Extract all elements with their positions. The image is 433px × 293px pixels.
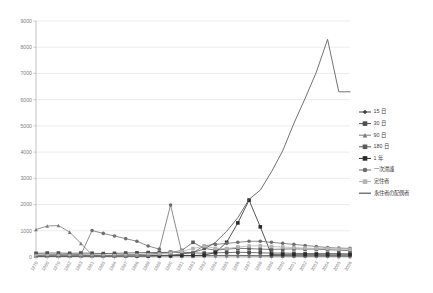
data-point-marker (247, 244, 251, 248)
legend-item-label: 30 日 (374, 120, 387, 127)
data-point-marker (169, 203, 173, 207)
data-point-marker (303, 253, 307, 257)
legend-item-label: 15 日 (374, 108, 387, 115)
data-point-marker (90, 229, 94, 233)
data-point-marker (113, 234, 117, 238)
legend-swatch-marker (363, 121, 368, 126)
data-point-marker (236, 250, 240, 254)
data-point-marker (258, 251, 262, 255)
data-point-marker (337, 247, 341, 251)
data-point-marker (135, 239, 139, 243)
data-point-marker (315, 247, 319, 251)
data-point-marker (236, 245, 240, 249)
data-point-marker (348, 248, 352, 252)
legend-item-label: 一次滞護 (374, 165, 395, 173)
data-point-marker (236, 221, 240, 225)
data-point-marker (292, 246, 296, 250)
legend-swatch-marker (363, 179, 368, 184)
data-point-marker (214, 247, 218, 251)
data-point-marker (258, 225, 262, 229)
data-point-marker (124, 254, 128, 258)
data-point-marker (292, 243, 296, 247)
data-point-marker (270, 253, 274, 257)
data-point-marker (146, 244, 150, 248)
y-tick-label: 6000 (20, 97, 32, 103)
data-point-marker (258, 239, 262, 243)
y-tick-label: 5000 (20, 123, 32, 129)
legend-item-label: 永住者の配偶者 (374, 189, 410, 197)
data-point-marker (337, 253, 341, 257)
data-point-marker (270, 245, 274, 249)
data-point-marker (247, 251, 251, 255)
data-point-marker (169, 251, 173, 255)
data-point-marker (202, 253, 206, 257)
data-point-marker (348, 253, 352, 257)
data-point-marker (281, 245, 285, 249)
data-point-marker (281, 253, 285, 257)
data-point-marker (258, 247, 262, 251)
y-tick-label: 8000 (20, 44, 32, 50)
legend-swatch-marker (363, 156, 368, 161)
data-point-marker (281, 242, 285, 246)
data-point-marker (180, 249, 184, 253)
y-tick-label: 4000 (20, 149, 32, 155)
data-point-marker (258, 244, 262, 248)
legend-item-label: 180 日 (374, 143, 390, 150)
data-point-marker (225, 247, 229, 251)
data-point-marker (247, 239, 251, 243)
data-point-marker (225, 251, 229, 255)
data-point-marker (191, 241, 195, 245)
data-point-marker (326, 247, 330, 251)
legend-swatch-marker (363, 145, 368, 150)
legend-item-label: 定住者 (374, 177, 390, 185)
data-point-marker (315, 253, 319, 257)
legend-swatch-marker (363, 168, 368, 173)
data-point-marker (202, 244, 206, 248)
data-point-marker (326, 253, 330, 257)
y-tick-label: 2000 (20, 201, 32, 207)
y-tick-label: 0 (29, 254, 32, 260)
data-point-marker (124, 237, 128, 241)
data-point-marker (158, 247, 162, 251)
y-tick-label: 9000 (20, 18, 32, 24)
data-point-marker (214, 251, 218, 255)
data-point-marker (270, 241, 274, 245)
line-chart-figure: 0100020003000400050006000700080009000 19… (0, 0, 433, 293)
data-point-marker (101, 232, 105, 236)
y-tick-label: 1000 (20, 228, 32, 234)
data-point-marker (292, 253, 296, 257)
data-point-marker (236, 241, 240, 245)
legend-item-label: 90 日 (374, 132, 387, 139)
y-tick-label: 7000 (20, 70, 32, 76)
data-point-marker (303, 246, 307, 250)
data-point-marker (225, 242, 229, 246)
data-point-marker (191, 247, 195, 251)
chart-canvas: 0100020003000400050006000700080009000 19… (0, 0, 433, 293)
legend-item-label: 1 年 (374, 154, 384, 162)
y-tick-label: 3000 (20, 175, 32, 181)
data-point-marker (135, 254, 139, 258)
